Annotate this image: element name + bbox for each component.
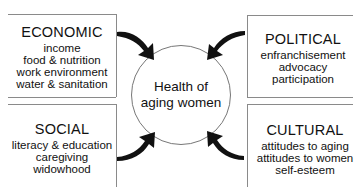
curved-arrow-icon bbox=[207, 31, 245, 60]
curved-arrow-icon bbox=[207, 131, 244, 160]
arrows-layer bbox=[0, 0, 361, 191]
curved-arrow-icon bbox=[117, 132, 155, 161]
curved-arrow-icon bbox=[117, 32, 154, 60]
